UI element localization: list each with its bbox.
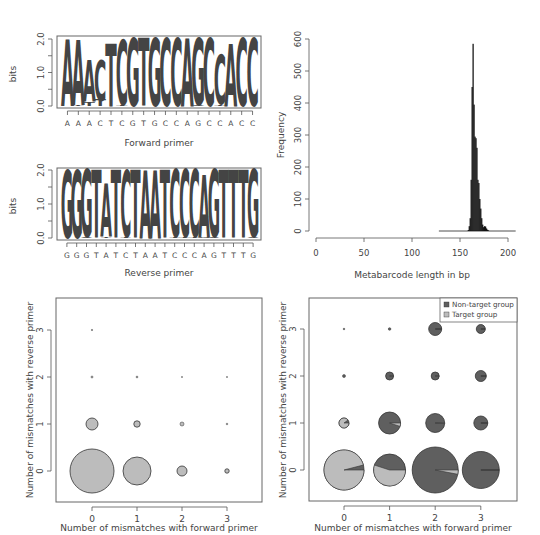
x-tick-label: C [250,119,255,128]
pie-slice-target [339,418,349,428]
pie-slice-non-target [388,328,391,331]
y-axis-label: bits [8,197,18,214]
x-tick-label: C [192,251,197,260]
x-tick-label: C [182,251,187,260]
legend: Non-target group Target group [440,298,517,322]
pie-slice-non-target [343,375,346,378]
x-tick-label: A [228,119,234,128]
y-tick-label: 1 [288,420,298,425]
pie-bubble [474,416,488,430]
y-tick-label: 3 [288,326,298,331]
y-tick-label: 300 [293,127,303,143]
x-tick-label: T [240,251,246,260]
bubble [70,449,114,493]
bubble [86,418,98,430]
x-tick-label: C [97,119,102,128]
pie-slice-non-target [343,328,345,330]
y-tick-label: 1.0 [36,66,46,80]
y-axis-label: Number of mismatches with reverse primer [25,301,35,498]
y-axis-label: Frequency [276,111,286,158]
legend-label-non-target: Non-target group [452,300,514,309]
bubble [91,329,92,330]
y-tick-label: 2 [288,373,298,378]
x-tick-label: T [132,251,138,260]
bubble [180,422,184,426]
y-axis: 0.01.02.0 [36,163,52,245]
x-tick-label: C [123,251,128,260]
pie-bubble [343,375,346,378]
y-axis-label: Number of mismatches with reverse primer [278,301,288,498]
pie-bubble [379,412,401,434]
mismatch-bubble-plot-panel: 0123 0123 Number of mismatches with reve… [25,298,262,533]
logo-letters: ATATATCTTCGTGCCAAGCTCACC [61,21,259,129]
x-tick-label: G [130,119,136,128]
x-tick-label: 2 [432,513,438,523]
x-tick-label: T [230,251,236,260]
logo-letters: GGAGTTATTCTAATTCTCTCGAAGTTTAG [61,151,260,260]
x-tick-label: 0 [313,248,318,258]
bubble [181,376,182,377]
pie-bubbles [324,323,499,494]
bubble [225,469,229,473]
reverse-primer-logo-panel: GGAGTTATTCTAATTCTCTCGAAGTTTAG 0.01.02.0 … [8,151,261,278]
y-axis: 0.01.02.0 [36,32,52,113]
x-tick-label: T [93,251,99,260]
bubbles [70,329,229,493]
y-axis: 0123 [35,327,51,473]
bubble [136,376,138,378]
y-tick-label: 1.0 [36,197,46,211]
length-histogram-panel: 0100200300400500600 050100150200 Frequen… [276,31,516,280]
x-axis-label: Number of mismatches with forward primer [60,523,258,533]
histogram-bar [488,230,489,231]
x-tick-label: G [84,251,90,260]
bubble [91,376,93,378]
legend-label-target: Target group [451,310,498,319]
x-tick-label: G [152,119,158,128]
x-axis-label: Metabarcode length in bp [354,270,470,280]
y-tick-label: 0.0 [36,99,46,113]
x-axis: 050100150200 [313,238,516,258]
figure-canvas: ATATATCTTCGTGCCAAGCTCACC 0.01.02.0 AAACT… [0,0,540,535]
legend-swatch-target [444,312,449,317]
x-tick-label: 1 [387,513,393,523]
x-tick-label: G [211,251,217,260]
forward-primer-logo-panel: ATATATCTTCGTGCCAAGCTCACC 0.01.02.0 AAACT… [8,21,261,148]
x-tick-label: 200 [500,248,516,258]
bubble [134,421,140,427]
y-tick-label: 600 [293,31,303,47]
pie-bubble [429,323,442,336]
x-tick-label: A [76,119,82,128]
y-tick-label: 0 [35,468,45,473]
x-axis: 0123 [89,507,230,524]
x-axis-label: Reverse primer [125,268,194,278]
x-tick-label: A [143,251,149,260]
x-tick-label: T [220,251,226,260]
x-tick-label: 3 [478,513,484,523]
pie-bubble [475,371,486,382]
y-tick-label: 500 [293,63,303,79]
bubble [226,423,228,425]
y-tick-label: 400 [293,95,303,111]
x-tick-label: C [217,119,222,128]
pie-bubble [426,414,445,433]
x-tick-label: A [87,119,93,128]
x-tick-label: 50 [359,248,370,258]
x-tick-label: A [202,251,208,260]
pie-bubble [462,452,499,489]
x-tick-label: C [172,251,177,260]
y-tick-label: 0 [288,467,298,472]
mismatch-pie-bubble-plot-panel: 0123 0123 Non-target group Target group … [278,298,517,533]
x-tick-label: G [74,251,80,260]
y-tick-label: 2.0 [36,163,46,177]
pie-bubble [324,450,364,490]
x-tick-label: 100 [404,248,420,258]
x-tick-label: C [206,119,211,128]
pie-bubble [476,325,485,334]
x-tick-label: C [174,119,179,128]
x-tick-label: A [153,251,159,260]
x-axis: 0123 [341,506,484,523]
y-tick-label: 100 [293,191,303,207]
x-tick-label: A [104,251,110,260]
y-tick-label: 0 [293,228,303,233]
y-axis: 0100200300400500600 [293,31,309,234]
